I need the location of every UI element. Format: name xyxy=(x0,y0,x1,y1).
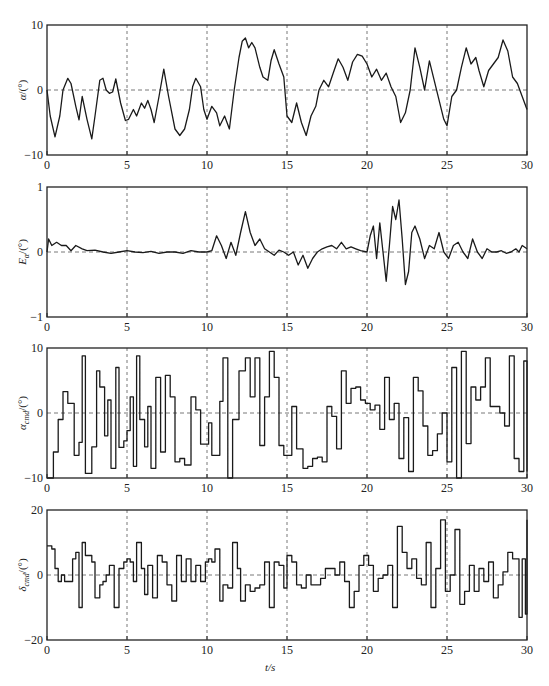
y-axis-label: αcmd/(°) xyxy=(16,396,31,430)
x-tick-label: 10 xyxy=(201,320,213,334)
x-tick-label: 0 xyxy=(44,320,50,334)
y-tick-label: 0 xyxy=(37,245,43,259)
y-tick-label: 10 xyxy=(31,18,43,32)
x-tick-label: 10 xyxy=(201,481,213,495)
x-tick-label: 0 xyxy=(44,481,50,495)
x-tick-label: 15 xyxy=(281,320,293,334)
x-tick-label: 20 xyxy=(361,481,373,495)
x-tick-label: 10 xyxy=(201,643,213,657)
y-tick-label: 20 xyxy=(31,503,43,517)
panel-alpha-cmd: 051015202530100−10αcmd/(°) xyxy=(16,341,533,495)
y-tick-label: 10 xyxy=(31,341,43,355)
x-tick-label: 30 xyxy=(521,481,533,495)
y-axis-label: δcmd/(°) xyxy=(16,558,31,592)
x-tick-label: 15 xyxy=(281,643,293,657)
panel-delta-cmd: 051015202530200−20δcmd/(°) xyxy=(16,503,533,657)
figure-canvas: 051015202530100−10α/(°)05101520253010−1E… xyxy=(0,0,549,686)
x-tick-label: 30 xyxy=(521,643,533,657)
y-axis-label: Eα/(°) xyxy=(16,239,31,266)
x-tick-label: 15 xyxy=(281,481,293,495)
x-tick-label: 20 xyxy=(361,643,373,657)
x-tick-label: 0 xyxy=(44,643,50,657)
y-tick-label: 0 xyxy=(37,406,43,420)
x-tick-label: 25 xyxy=(441,158,453,172)
panel-error-alpha: 05101520253010−1Eα/(°) xyxy=(16,180,533,334)
x-tick-label: 20 xyxy=(361,158,373,172)
x-tick-label: 20 xyxy=(361,320,373,334)
y-tick-label: −10 xyxy=(24,148,43,162)
y-tick-label: 1 xyxy=(37,180,43,194)
y-tick-label: −1 xyxy=(30,310,43,324)
y-tick-label: 0 xyxy=(37,83,43,97)
x-tick-label: 10 xyxy=(201,158,213,172)
x-tick-label: 5 xyxy=(124,643,130,657)
x-tick-label: 0 xyxy=(44,158,50,172)
y-tick-label: 0 xyxy=(37,568,43,582)
x-tick-label: 5 xyxy=(124,158,130,172)
x-tick-label: 25 xyxy=(441,320,453,334)
x-tick-label: 30 xyxy=(521,158,533,172)
x-tick-label: 30 xyxy=(521,320,533,334)
panel-alpha: 051015202530100−10α/(°) xyxy=(16,18,533,172)
x-tick-label: 15 xyxy=(281,158,293,172)
y-tick-label: −10 xyxy=(24,471,43,485)
y-tick-label: −20 xyxy=(24,633,43,647)
x-axis-label: t/s xyxy=(265,661,275,673)
x-tick-label: 25 xyxy=(441,643,453,657)
x-tick-label: 25 xyxy=(441,481,453,495)
x-tick-label: 5 xyxy=(124,481,130,495)
y-axis-label: α/(°) xyxy=(16,79,29,100)
x-tick-label: 5 xyxy=(124,320,130,334)
